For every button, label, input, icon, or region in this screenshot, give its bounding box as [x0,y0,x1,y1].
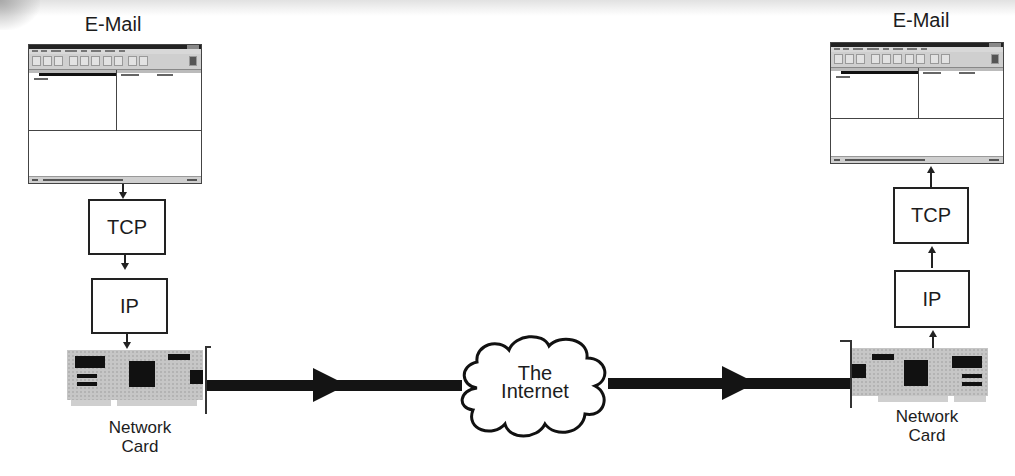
selected-folder [841,71,919,74]
arrowhead-down-icon [123,342,131,349]
pane-divider-vertical [918,68,919,118]
receiver-network-card-label: Network Card [882,407,972,445]
flow-arrow-right-icon [313,368,347,402]
receiver-email-window-thumbnail [830,42,1004,164]
sender-network-card-image [67,350,203,400]
arrowhead-up-icon [927,166,935,173]
status-bar [29,176,201,183]
status-bar [831,156,1003,163]
sender-ip-box: IP [91,278,168,334]
pane-divider-horizontal [831,118,1003,119]
receiver-app-label: E-Mail [866,10,976,30]
arrowhead-down-icon [119,192,127,199]
sender-email-window-thumbnail [28,44,202,184]
receiver-ip-box: IP [894,270,970,328]
toolbar [831,52,1003,68]
arrowhead-up-icon [928,246,936,253]
flow-arrow-right-icon [722,366,756,400]
arrowhead-down-icon [121,263,129,270]
sender-tcp-box: TCP [88,199,166,255]
sender-app-label: E-Mail [58,14,168,34]
internet-label: The Internet [480,364,590,400]
receiver-network-card-image [852,348,988,396]
sender-network-card-label: Network Card [95,418,185,456]
pane-divider-horizontal [29,130,201,131]
selected-folder [39,73,117,76]
pane-divider-vertical [116,70,117,130]
receiver-tcp-box: TCP [893,187,969,244]
toolbar [29,54,201,70]
cropped-caption-fragment [640,468,840,476]
arrowhead-up-icon [929,330,937,337]
scan-shadow-corner [0,0,40,30]
